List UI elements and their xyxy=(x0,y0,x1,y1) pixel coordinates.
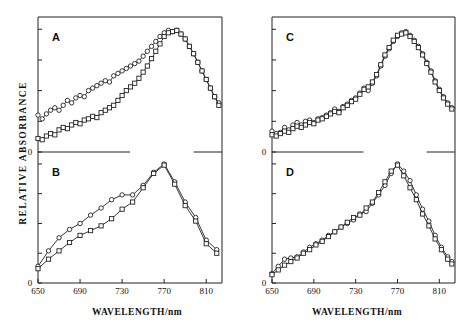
data-point-circle xyxy=(133,61,137,65)
data-point-circle xyxy=(149,44,153,48)
data-point-square xyxy=(120,207,124,211)
data-point-square xyxy=(339,225,343,229)
data-point-square xyxy=(192,52,196,56)
zero-label-mid: 0 xyxy=(262,147,267,157)
data-point-square xyxy=(116,98,120,102)
data-point-square xyxy=(278,131,282,135)
data-point-square xyxy=(391,38,395,42)
data-point-circle xyxy=(46,249,50,253)
data-point-square xyxy=(308,120,312,124)
data-point-square xyxy=(213,95,217,99)
data-point-circle xyxy=(141,54,145,58)
x-tick-label: 730 xyxy=(115,286,129,296)
series-line-circles-upper xyxy=(38,164,217,266)
data-point-square xyxy=(320,117,324,121)
data-point-square xyxy=(345,220,349,224)
data-point-square xyxy=(408,34,412,38)
data-point-square xyxy=(162,34,166,38)
data-point-square xyxy=(183,37,187,41)
panel-label-a: A xyxy=(52,31,60,43)
data-point-square xyxy=(395,163,399,167)
data-point-square xyxy=(437,88,441,92)
x-tick-label: 810 xyxy=(433,286,447,296)
data-point-square xyxy=(141,70,145,74)
data-point-square xyxy=(400,32,404,36)
data-point-circle xyxy=(57,236,61,240)
data-point-circle xyxy=(86,88,90,92)
data-point-square xyxy=(120,93,124,97)
data-point-circle xyxy=(120,193,124,197)
data-point-square xyxy=(208,86,212,90)
data-point-square xyxy=(44,134,48,138)
data-point-square xyxy=(320,239,324,243)
data-point-square xyxy=(303,123,307,127)
data-point-square xyxy=(416,45,420,49)
data-point-square xyxy=(374,73,378,77)
data-point-circle xyxy=(61,103,65,107)
data-point-square xyxy=(425,61,429,65)
data-point-square xyxy=(166,31,170,35)
data-point-square xyxy=(408,186,412,190)
series-line-circles xyxy=(272,32,452,134)
data-point-square xyxy=(358,213,362,217)
x-axis-label-right: WAVELENGTH/nm xyxy=(312,307,402,317)
data-point-square xyxy=(341,106,345,110)
data-point-square xyxy=(158,42,162,46)
data-point-square xyxy=(187,44,191,48)
data-point-square xyxy=(446,102,450,106)
data-point-square xyxy=(110,217,114,221)
data-point-circle xyxy=(116,71,120,75)
data-point-square xyxy=(354,97,358,101)
data-point-square xyxy=(433,80,437,84)
data-point-square xyxy=(99,111,103,115)
data-point-circle xyxy=(69,101,73,105)
data-point-square xyxy=(152,171,156,175)
data-point-square xyxy=(295,256,299,260)
data-point-square xyxy=(61,125,65,129)
data-point-square xyxy=(441,96,445,100)
data-point-circle xyxy=(107,80,111,84)
data-point-circle xyxy=(99,81,103,85)
data-point-circle xyxy=(124,66,128,70)
x-tick-label: 690 xyxy=(307,286,321,296)
data-point-square xyxy=(57,128,61,132)
data-point-circle xyxy=(48,108,52,112)
data-point-square xyxy=(333,109,337,113)
data-point-square xyxy=(112,103,116,107)
data-point-circle xyxy=(53,106,57,110)
data-point-circle xyxy=(145,49,149,53)
data-point-circle xyxy=(88,213,92,217)
data-point-square xyxy=(204,242,208,246)
data-point-square xyxy=(70,123,74,127)
data-point-square xyxy=(46,257,50,261)
data-point-square xyxy=(95,116,99,120)
data-point-square xyxy=(78,122,82,126)
data-point-square xyxy=(270,133,274,137)
figure-container: 6506907307708100065069073077081000 WAVEL… xyxy=(0,0,475,331)
data-point-square xyxy=(349,100,353,104)
data-point-square xyxy=(196,60,200,64)
zero-label-bottom: 0 xyxy=(262,278,267,288)
data-point-circle xyxy=(36,113,40,117)
data-point-square xyxy=(49,131,53,135)
data-point-square xyxy=(404,31,408,35)
data-point-circle xyxy=(103,79,107,83)
data-point-square xyxy=(53,133,57,137)
data-point-circle xyxy=(112,74,116,78)
data-point-square xyxy=(276,268,280,272)
data-point-square xyxy=(301,251,305,255)
x-tick-label: 650 xyxy=(31,286,45,296)
data-point-square xyxy=(173,182,177,186)
data-point-square xyxy=(57,249,61,253)
data-point-square xyxy=(420,53,424,57)
data-point-circle xyxy=(57,108,61,112)
data-point-square xyxy=(282,263,286,267)
data-point-square xyxy=(74,120,78,124)
data-point-circle xyxy=(78,93,82,97)
data-point-square xyxy=(67,240,71,244)
data-point-square xyxy=(270,273,274,277)
data-point-square xyxy=(389,169,393,173)
data-point-square xyxy=(395,33,399,37)
data-point-square xyxy=(366,85,370,89)
data-point-square xyxy=(370,200,374,204)
